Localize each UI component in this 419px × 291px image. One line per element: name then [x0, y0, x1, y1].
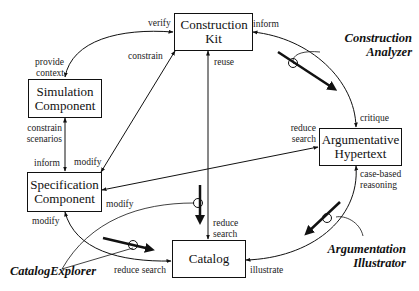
edge-constrain [101, 51, 175, 172]
label-reduce-search-catalog-left: reduce search [114, 265, 166, 276]
tool-argumentation-illustrator: Argumentation Illustrator [322, 243, 406, 270]
label-modify-bottom: modify [32, 216, 59, 227]
argumentative-hypertext-box: Argumentative Hypertext [319, 128, 402, 166]
simulation-component-box: Simulation Component [28, 79, 102, 118]
label-case-based-reasoning: case-based reasoning [360, 169, 408, 190]
label-inform-top: inform [253, 19, 279, 30]
construction-kit-box: Construction Kit [174, 13, 253, 51]
label-provide-context: provide context [30, 57, 64, 78]
label-reduce-search-hyper: reduce search [282, 123, 316, 144]
label-critique: critique [360, 113, 389, 124]
argumentative-hypertext-label: Argumentative Hypertext [321, 133, 401, 161]
specification-component-box: Specification Component [27, 172, 102, 212]
label-inform-left: inform [34, 158, 60, 169]
label-constrain-scenarios: constrain scenarios [18, 123, 62, 144]
edge-reduce-search-hyper [102, 147, 318, 190]
label-verify: verify [148, 18, 171, 29]
specification-component-label: Specification Component [29, 178, 101, 206]
label-constrain: constrain [128, 51, 163, 62]
tool-catalog-explorer: CatalogExplorer [10, 265, 96, 279]
edge-modify-reduce [65, 212, 171, 261]
label-reuse: reuse [214, 57, 234, 68]
simulation-component-label: Simulation Component [30, 85, 100, 113]
tool-construction-analyzer: Construction Analyzer [332, 32, 412, 59]
label-modify-top: modify [74, 157, 101, 168]
label-modify-right: modify [106, 199, 133, 210]
label-reduce-search-catalog-top: reduce search [213, 218, 243, 239]
catalog-box: Catalog [172, 240, 246, 278]
catalog-label: Catalog [189, 252, 229, 266]
construction-kit-label: Construction Kit [181, 18, 247, 46]
label-illustrate: illustrate [250, 265, 283, 276]
